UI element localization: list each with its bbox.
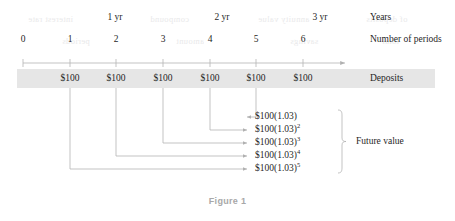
future-value-base: $100(1.03) [255, 111, 297, 121]
row-label-years: Years [370, 12, 391, 22]
future-value-base: $100(1.03) [255, 137, 297, 147]
connector-period-4 [210, 88, 247, 130]
future-value-base: $100(1.03) [255, 163, 297, 173]
deposit-amount: $100 [294, 73, 313, 83]
connector-period-1 [70, 88, 247, 169]
period-number: 6 [301, 34, 306, 44]
future-value-exponent: 4 [297, 148, 300, 155]
year-label: 1 yr [107, 12, 122, 22]
period-number: 4 [208, 34, 213, 44]
deposit-connectors [70, 88, 256, 169]
deposit-amount: $100 [247, 73, 266, 83]
future-value-item: $100(1.03)4 [255, 150, 300, 160]
deposit-amount: $100 [61, 73, 80, 83]
row-label-deposits: Deposits [370, 73, 403, 83]
figure-caption: Figure 1 [0, 196, 455, 206]
future-value-item: $100(1.03)5 [255, 163, 300, 173]
future-value-brace [338, 110, 346, 173]
period-number: 3 [161, 34, 166, 44]
period-number: 0 [21, 34, 26, 44]
deposit-amount: $100 [107, 73, 126, 83]
future-value-exponent: 2 [297, 122, 300, 129]
future-value-exponent: 3 [297, 135, 300, 142]
deposit-amount: $100 [154, 73, 173, 83]
future-value-item: $100(1.03)3 [255, 137, 300, 147]
future-value-item: $100(1.03)2 [255, 124, 300, 134]
row-label-future-value: Future value [356, 136, 404, 146]
period-number: 1 [68, 34, 73, 44]
period-number: 2 [114, 34, 119, 44]
future-value-exponent: 5 [297, 161, 300, 168]
figure-timeline-future-value: interest rate compound annuity value of … [0, 0, 455, 221]
row-label-number-of-periods: Number of periods [370, 34, 442, 44]
connector-period-2 [116, 88, 247, 156]
deposit-amount: $100 [201, 73, 220, 83]
timeline-axis [23, 59, 345, 67]
year-label: 3 yr [312, 12, 327, 22]
period-number: 5 [254, 34, 259, 44]
year-label: 2 yr [214, 12, 229, 22]
connector-period-3 [163, 88, 247, 143]
future-value-base: $100(1.03) [255, 150, 297, 160]
future-value-item: $100(1.03) [255, 111, 297, 121]
future-value-base: $100(1.03) [255, 124, 297, 134]
